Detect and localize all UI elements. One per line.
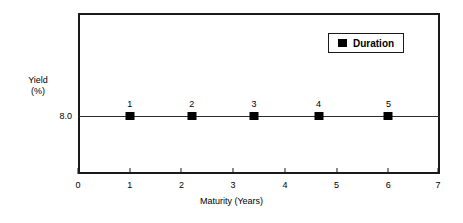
data-point-label-3: 3 — [251, 99, 256, 109]
data-point-marker-2 — [187, 112, 196, 120]
data-point-label-4: 4 — [316, 99, 321, 109]
y-axis-title: Yield (%) — [12, 75, 64, 97]
x-tick-4 — [284, 168, 285, 174]
x-tick-1 — [129, 168, 130, 174]
x-tick-2 — [181, 168, 182, 174]
x-tick-label-7: 7 — [435, 180, 440, 190]
data-point-marker-3 — [249, 112, 258, 120]
data-point-marker-5 — [384, 112, 393, 120]
x-tick-label-2: 2 — [179, 180, 184, 190]
data-point-label-5: 5 — [386, 99, 391, 109]
x-tick-5 — [336, 168, 337, 174]
x-tick-label-1: 1 — [127, 180, 132, 190]
legend: Duration — [328, 33, 404, 53]
x-tick-label-6: 6 — [386, 180, 391, 190]
legend-label-duration: Duration — [353, 38, 394, 49]
x-tick-7 — [438, 168, 439, 174]
x-tick-6 — [388, 168, 389, 174]
legend-swatch-icon — [338, 39, 347, 47]
data-point-label-2: 2 — [189, 99, 194, 109]
y-tick-label-8.0: 8.0 — [38, 111, 72, 121]
chart-container: Yield (%) 8.0 1 2 3 4 5 0 1 2 3 4 5 6 7 … — [0, 0, 463, 223]
x-tick-label-4: 4 — [282, 180, 287, 190]
x-tick-label-3: 3 — [231, 180, 236, 190]
x-tick-0 — [78, 168, 79, 174]
data-point-label-1: 1 — [127, 99, 132, 109]
data-point-marker-1 — [125, 112, 134, 120]
y-axis-title-line1: Yield — [12, 75, 64, 86]
x-tick-label-0: 0 — [75, 180, 80, 190]
x-axis-title: Maturity (Years) — [0, 196, 463, 207]
x-tick-label-5: 5 — [334, 180, 339, 190]
data-point-marker-4 — [314, 112, 323, 120]
x-tick-3 — [233, 168, 234, 174]
y-axis-title-line2: (%) — [12, 86, 64, 97]
